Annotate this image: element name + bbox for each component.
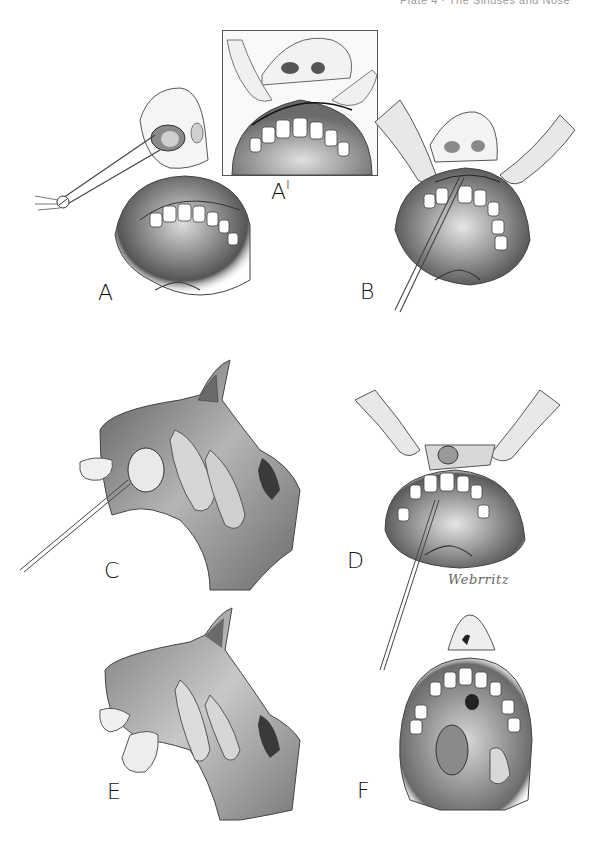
panel-c: C: [0, 340, 340, 600]
panel-d: D: [340, 390, 596, 590]
panel-b: B: [360, 70, 596, 330]
panel-e-drawing: [60, 600, 320, 845]
panel-a1-drawing: [222, 30, 378, 176]
illustration-plate: Plate 4 · The Sinuses and Nose: [0, 0, 596, 845]
panel-a: A: [0, 20, 250, 310]
plate-header: Plate 4 · The Sinuses and Nose: [400, 0, 590, 4]
artist-signature: Webrritz: [448, 572, 509, 587]
panel-label-a1: AI: [271, 178, 290, 203]
panel-a1-inset: AI: [222, 30, 378, 176]
panel-a-drawing: [0, 20, 250, 310]
panel-label-c: C: [104, 560, 119, 582]
panel-f-drawing: [340, 600, 596, 845]
panel-c-drawing: [0, 340, 340, 600]
panel-label-d: D: [347, 550, 364, 572]
panel-e: E: [60, 600, 320, 845]
panel-f: F: [340, 600, 596, 845]
panel-label-f: F: [357, 780, 370, 802]
panel-d-drawing: [340, 390, 596, 590]
panel-label-e: E: [107, 781, 121, 803]
panel-label-b: B: [360, 281, 374, 303]
panel-label-a: A: [98, 282, 113, 304]
panel-b-drawing: [360, 70, 596, 330]
panel-label-a1-superscript: I: [286, 177, 290, 192]
panel-label-a1-letter: A: [271, 179, 286, 204]
